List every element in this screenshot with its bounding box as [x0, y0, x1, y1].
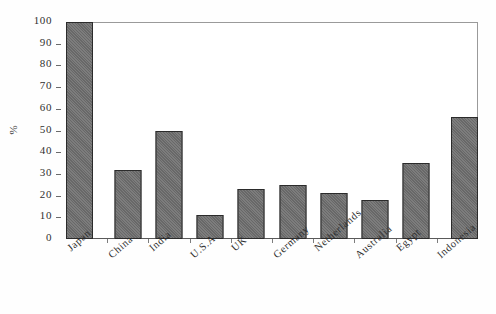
bar-slot — [437, 22, 478, 239]
bar-slot — [231, 22, 272, 239]
y-axis-tick-mark — [56, 109, 61, 110]
y-axis-tick-label: 10 — [40, 209, 52, 221]
y-axis-tick-mark — [56, 44, 61, 45]
y-axis-tick-label: 30 — [40, 166, 52, 178]
y-axis-tick-label: 40 — [40, 144, 52, 156]
bar-chart: % 1009080706050403020100 JapanChinaIndia… — [0, 0, 496, 314]
bar-slot — [148, 22, 189, 239]
bar-uk — [238, 189, 265, 239]
y-axis-title: % — [1, 119, 25, 141]
bar-slot — [313, 22, 354, 239]
y-axis-tick-label: 70 — [40, 79, 52, 91]
bar-japan — [66, 22, 93, 239]
y-axis-tick-label: 100 — [34, 14, 52, 26]
bar-slot — [66, 22, 107, 239]
y-axis-tick-label: 60 — [40, 101, 52, 113]
bar-slot — [396, 22, 437, 239]
bar-slot — [190, 22, 231, 239]
bar-slot — [354, 22, 395, 239]
bar-slot — [107, 22, 148, 239]
y-axis-tick-label: 80 — [40, 57, 52, 69]
y-axis-tick-label: 20 — [40, 188, 52, 200]
y-axis-tick-mark — [56, 174, 61, 175]
bar-slot — [272, 22, 313, 239]
bar-china — [114, 170, 141, 239]
y-axis-tick-mark — [56, 152, 61, 153]
bar-indonesia — [451, 117, 478, 239]
y-axis-tick-mark — [56, 65, 61, 66]
bars-container — [66, 22, 478, 239]
y-axis-tick-mark — [56, 217, 61, 218]
y-axis-tick-mark — [56, 196, 61, 197]
y-axis-tick-label: 50 — [40, 123, 52, 135]
y-axis-tick-mark — [56, 131, 61, 132]
y-axis-tick-label: 90 — [40, 36, 52, 48]
y-axis-tick-mark — [56, 87, 61, 88]
bar-india — [155, 131, 182, 240]
x-axis-labels: JapanChinaIndiaU.S.A.UKGermanyNetherland… — [0, 239, 496, 314]
